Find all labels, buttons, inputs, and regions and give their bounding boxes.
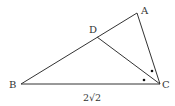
label-d: D	[89, 24, 97, 35]
angle-mark-dot-acd	[151, 70, 154, 73]
label-a: A	[140, 5, 149, 16]
triangle-diagram: A B C D 2√2	[0, 0, 175, 106]
label-b: B	[9, 79, 16, 90]
angle-mark-dot-dcb	[143, 79, 146, 82]
side-length-bc: 2√2	[83, 92, 101, 103]
segment-cd	[97, 37, 160, 84]
segment-ca	[137, 13, 160, 84]
label-c: C	[162, 79, 170, 90]
segment-ab	[21, 13, 137, 84]
